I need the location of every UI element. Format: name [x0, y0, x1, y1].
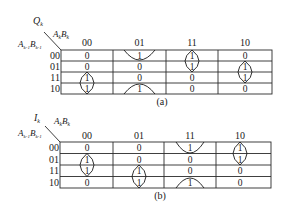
cell: 0	[188, 155, 193, 165]
column-header: 11	[187, 37, 197, 48]
row-header: 00	[50, 50, 60, 61]
column-header: 11	[185, 130, 195, 141]
cell: 1	[85, 155, 90, 165]
cell: 1	[137, 84, 142, 94]
row-variables-label: Ak-1Bk-1	[17, 39, 42, 50]
cell: 1	[238, 143, 243, 153]
output-variable-label: Qk	[33, 15, 43, 27]
column-header: 00	[82, 130, 92, 141]
cell: 0	[85, 62, 90, 72]
cell: 0	[190, 84, 195, 94]
column-header: 01	[135, 37, 145, 48]
cell: 0	[85, 178, 90, 188]
row-header: 00	[49, 142, 59, 153]
cell: 0	[137, 62, 142, 72]
cell: 0	[190, 73, 195, 83]
row-header: 10	[50, 83, 60, 94]
karnaugh-maps-figure: Qk AkBk Ak-1Bk-1 00 01 11 10 00 01 11 10…	[0, 0, 287, 214]
cell: 0	[238, 166, 243, 176]
column-header: 10	[240, 37, 250, 48]
column-variables-label: AkBk	[53, 116, 70, 127]
cell: 1	[137, 166, 142, 176]
cell: 0	[137, 155, 142, 165]
cell: 1	[85, 73, 90, 83]
karnaugh-map-b: Ik AkBk Ak-1Bk-1 00 01 11 10 00 01 11 10…	[17, 112, 271, 202]
column-header: 01	[134, 130, 144, 141]
row-header: 01	[49, 154, 59, 165]
row-header: 11	[49, 165, 59, 176]
row-header: 11	[50, 72, 60, 83]
caption: (a)	[156, 96, 167, 108]
row-header: 01	[50, 61, 60, 72]
cell: 1	[243, 62, 248, 72]
caption: (b)	[154, 190, 166, 202]
output-variable-label: Ik	[33, 112, 40, 124]
row-variables-label: Ak-1Bk-1	[17, 128, 42, 139]
column-header: 10	[235, 130, 245, 141]
cell: 0	[238, 178, 243, 188]
cell: 1	[190, 51, 195, 61]
cell: 1	[188, 143, 193, 153]
cell: 0	[243, 84, 248, 94]
cell: 0	[137, 143, 142, 153]
cell: 0	[85, 51, 90, 61]
column-variables-label: AkBk	[52, 29, 69, 40]
cell: 0	[137, 73, 142, 83]
cell: 0	[188, 166, 193, 176]
karnaugh-map-a: Qk AkBk Ak-1Bk-1 00 01 11 10 00 01 11 10…	[17, 15, 272, 108]
row-header: 10	[49, 177, 59, 188]
corner-diagonal	[45, 126, 60, 142]
cell: 0	[243, 51, 248, 61]
cell: 0	[85, 143, 90, 153]
cell: 1	[188, 178, 193, 188]
column-header: 00	[82, 37, 92, 48]
